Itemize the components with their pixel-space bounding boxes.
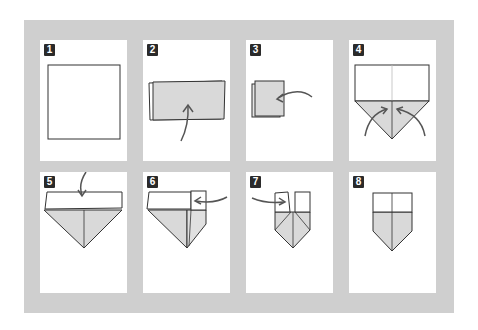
- step-panel-4: 4: [349, 40, 436, 161]
- fold-left-in-illustration: [246, 172, 333, 293]
- step-panel-3: 3: [246, 40, 333, 161]
- step-panel-6: 6: [143, 172, 230, 293]
- fold-up-illustration: [143, 40, 230, 161]
- step-panel-8: 8: [349, 172, 436, 293]
- step-panel-5: 5: [40, 172, 127, 293]
- fold-top-down-illustration: [40, 172, 127, 293]
- step-panel-1: 1: [40, 40, 127, 161]
- step-panel-2: 2: [143, 40, 230, 161]
- finished-shape-illustration: [349, 172, 436, 293]
- fold-left-illustration: [246, 40, 333, 161]
- fold-corners-illustration: [349, 40, 436, 161]
- step-panel-7: 7: [246, 172, 333, 293]
- fold-right-in-illustration: [143, 172, 230, 293]
- square-paper-illustration: [40, 40, 127, 161]
